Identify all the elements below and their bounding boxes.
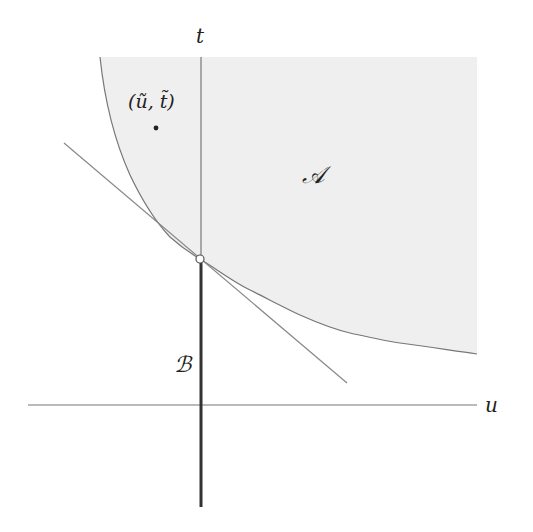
- t-axis-label: t: [196, 24, 205, 48]
- diagram-canvas: t u (ũ, t̃) 𝒜 ℬ: [0, 0, 533, 532]
- point-dot: [154, 126, 159, 131]
- point-label: (ũ, t̃): [128, 90, 175, 112]
- tangent-point-marker: [196, 255, 204, 263]
- region-b-label: ℬ: [174, 352, 193, 377]
- u-axis-label: u: [485, 393, 498, 417]
